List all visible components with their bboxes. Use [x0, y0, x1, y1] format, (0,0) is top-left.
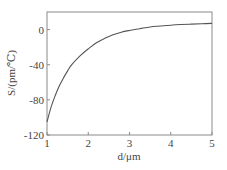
x-tick-label: 3 [127, 137, 133, 149]
y-axis-label: S/(pm/℃) [5, 50, 18, 96]
chart: 0-40-80-120 12345 d/μm S/(pm/℃) [0, 0, 227, 170]
y-tick-label: -120 [24, 129, 45, 141]
y-tick-label: 0 [39, 24, 45, 36]
y-tick-label: -80 [29, 94, 44, 106]
x-tick-label: 5 [209, 137, 215, 149]
x-tick-label: 2 [86, 137, 92, 149]
y-tick-label: -40 [29, 59, 44, 71]
y-axis-ticks: 0-40-80-120 [24, 24, 50, 141]
data-line [47, 23, 212, 121]
x-tick-label: 4 [168, 137, 174, 149]
x-axis-label: d/μm [117, 150, 140, 162]
x-tick-label: 1 [44, 137, 50, 149]
